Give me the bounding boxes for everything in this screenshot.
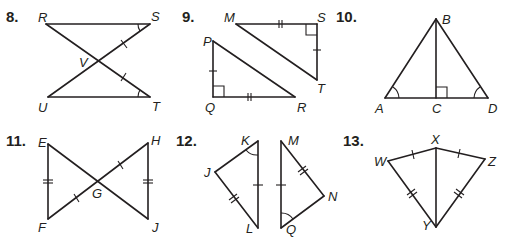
problem-number: 9. [182, 8, 195, 25]
vertex-label-J: J [151, 220, 159, 235]
problem-number: 12. [176, 132, 197, 149]
right-angle-C [436, 87, 447, 98]
angle-arc-D [474, 87, 480, 98]
geometry-figures: 8. R S V U T 9. M S T [0, 0, 507, 246]
angle-arc-T [138, 90, 140, 97]
vertex-label-Z: Z [487, 154, 497, 169]
segment-MT [236, 24, 317, 80]
vertex-label-M: M [288, 133, 299, 148]
angle-arc-A [393, 87, 399, 98]
vertex-label-T: T [152, 99, 161, 114]
vertex-label-E: E [38, 135, 47, 150]
vertex-label-K: K [241, 133, 251, 148]
vertex-label-Q: Q [286, 222, 296, 237]
segment-JL [215, 172, 258, 228]
segment-AB [385, 19, 436, 98]
vertex-label-Q: Q [205, 100, 215, 115]
vertex-label-U: U [38, 100, 48, 115]
problem-10: 10. B A C D [336, 8, 497, 116]
right-angle-Q [213, 86, 224, 97]
vertex-label-P: P [203, 34, 212, 49]
problem-8: 8. R S V U T [6, 8, 161, 115]
problem-number: 10. [336, 8, 357, 25]
vertex-label-F: F [38, 220, 47, 235]
vertex-label-S: S [317, 10, 326, 25]
segment-PR [213, 41, 295, 97]
vertex-label-L: L [246, 221, 253, 236]
problem-number: 13. [343, 132, 364, 149]
problem-number: 11. [6, 132, 26, 149]
vertex-label-R: R [297, 100, 306, 115]
problem-12: 12. K J L M N Q [176, 132, 338, 237]
vertex-label-C: C [432, 101, 442, 116]
vertex-label-J: J [203, 165, 211, 180]
vertex-label-D: D [488, 101, 497, 116]
vertex-label-W: W [374, 154, 388, 169]
vertex-label-H: H [151, 133, 161, 148]
problem-number: 8. [6, 8, 19, 25]
problem-13: 13. X W Z Y [343, 132, 497, 233]
vertex-label-B: B [442, 12, 451, 27]
segment-XZ [436, 148, 485, 159]
segment-BD [436, 19, 488, 98]
angle-arc-S [138, 24, 140, 31]
problem-11: 11. E F G H J [6, 132, 161, 235]
vertex-label-V: V [79, 55, 89, 70]
angle-arc-Q [281, 213, 293, 219]
right-angle-S [306, 24, 317, 35]
segment-JK [215, 141, 258, 172]
angle-arc-K [246, 150, 258, 155]
vertex-label-X: X [430, 132, 441, 147]
problem-9: 9. M S T P Q R [182, 8, 326, 115]
vertex-label-M: M [224, 10, 235, 25]
segment-WX [388, 148, 436, 161]
vertex-label-R: R [38, 10, 47, 25]
vertex-label-S: S [151, 9, 160, 24]
vertex-label-G: G [92, 186, 102, 201]
vertex-label-A: A [374, 101, 384, 116]
vertex-label-T: T [317, 81, 326, 96]
vertex-label-Y: Y [422, 218, 432, 233]
vertex-label-N: N [328, 189, 338, 204]
